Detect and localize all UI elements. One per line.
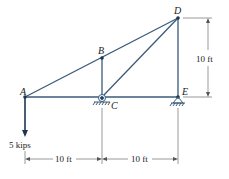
span-CE-label: 10 ft: [131, 154, 148, 164]
roller-support-icon: [93, 95, 110, 106]
load-label: 5 kips: [9, 140, 31, 150]
truss-diagram: A B C D E 5 kips 10 ft 10 ft 10 ft: [0, 0, 229, 179]
joint-D: [176, 16, 180, 20]
joint-B: [100, 56, 104, 60]
height-label: 10 ft: [196, 54, 213, 64]
label-B: B: [98, 45, 104, 56]
span-AC-label: 10 ft: [55, 154, 72, 164]
load-arrow-icon: [22, 97, 28, 137]
label-A: A: [19, 86, 27, 97]
member-CD: [102, 18, 178, 97]
pin-support-icon: [170, 97, 185, 106]
label-E: E: [181, 86, 188, 97]
label-D: D: [173, 5, 182, 16]
span-dimensions: [25, 108, 178, 164]
label-C: C: [111, 100, 118, 111]
